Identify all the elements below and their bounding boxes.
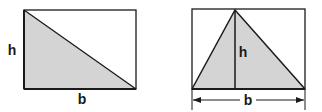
triangle-area-diagram: h b h b — [0, 0, 322, 112]
base-label: b — [244, 92, 253, 108]
height-label: h — [8, 42, 17, 58]
height-label: h — [239, 44, 248, 60]
base-label: b — [78, 91, 87, 107]
figure-right-triangle: h b — [8, 10, 136, 107]
figure-general-triangle: h b — [192, 9, 305, 110]
shaded-triangle — [192, 10, 305, 89]
